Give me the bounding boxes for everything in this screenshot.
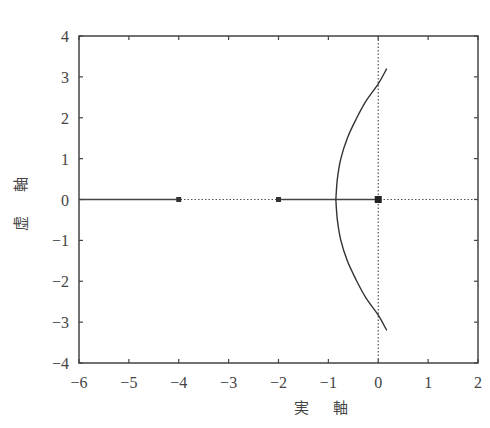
y-axis-label: 虚 軸 xyxy=(12,167,30,232)
x-tick-label: −4 xyxy=(170,374,187,391)
y-tick-label: 3 xyxy=(61,69,69,86)
svg-text:虚 軸: 虚 軸 xyxy=(12,167,30,232)
pole-marker-origin xyxy=(375,196,382,203)
y-tick-label: −1 xyxy=(52,232,69,249)
x-tick-label: −6 xyxy=(70,374,87,391)
y-tick-label: 0 xyxy=(61,192,69,209)
y-tick-label: −2 xyxy=(52,273,69,290)
y-tick-label: 4 xyxy=(61,28,69,45)
y-tick-label: 1 xyxy=(61,151,69,168)
x-tick-label: 2 xyxy=(474,374,482,391)
tick-labels: −6−5−4−3−2−1012−4−3−2−101234 xyxy=(52,28,482,391)
root-locus-branch-upper xyxy=(336,69,387,200)
root-locus-chart: −6−5−4−3−2−1012−4−3−2−101234 実 軸 虚 軸 xyxy=(0,0,490,428)
x-tick-label: −3 xyxy=(220,374,237,391)
x-tick-label: 0 xyxy=(374,374,382,391)
y-tick-label: −4 xyxy=(52,355,69,372)
pole-marker xyxy=(276,197,281,202)
x-tick-label: −2 xyxy=(270,374,287,391)
x-tick-label: −1 xyxy=(320,374,337,391)
y-tick-label: 2 xyxy=(61,110,69,127)
root-locus-branch-lower xyxy=(336,200,387,331)
y-tick-label: −3 xyxy=(52,314,69,331)
x-tick-label: 1 xyxy=(424,374,432,391)
x-tick-label: −5 xyxy=(120,374,137,391)
x-axis-label: 実 軸 xyxy=(294,399,359,417)
pole-marker xyxy=(176,197,181,202)
plot-area xyxy=(79,36,478,363)
